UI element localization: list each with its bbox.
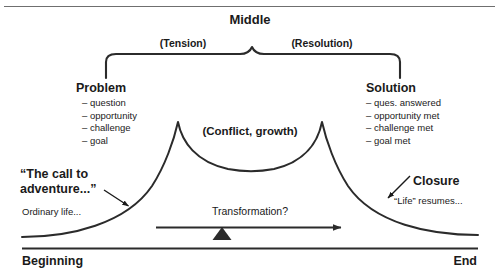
- curly-brace-icon: [106, 47, 400, 78]
- middle-label: Middle: [229, 13, 270, 28]
- beginning-label: Beginning: [22, 254, 83, 268]
- list-item: – goal met: [366, 135, 441, 148]
- problem-list: – question – opportunity – challenge – g…: [82, 97, 137, 147]
- closure-label: Closure: [413, 174, 460, 188]
- list-item: – opportunity met: [366, 110, 441, 123]
- list-item: – ques. answered: [366, 97, 441, 110]
- resolution-label: (Resolution): [291, 38, 352, 50]
- end-label: End: [453, 254, 477, 268]
- ordinary-life-label: Ordinary life...: [22, 207, 81, 218]
- list-item: – goal: [82, 135, 137, 148]
- call-to-adventure-pointer-icon: [104, 190, 129, 206]
- transformation-label: Transformation?: [212, 206, 288, 218]
- life-resumes-label: “Life” resumes...: [394, 196, 463, 207]
- triangle-fulcrum-icon: [213, 227, 232, 240]
- problem-heading: Problem: [76, 81, 126, 95]
- solution-list: – ques. answered – opportunity met – cha…: [366, 97, 441, 147]
- tension-label: (Tension): [160, 38, 206, 50]
- list-item: – question: [82, 97, 137, 110]
- call-to-adventure-label: “The call to adventure...”: [20, 167, 96, 197]
- conflict-growth-label: (Conflict, growth): [202, 125, 297, 138]
- list-item: – challenge: [82, 122, 137, 135]
- list-item: – challenge met: [366, 122, 441, 135]
- list-item: – opportunity: [82, 110, 137, 123]
- solution-heading: Solution: [366, 81, 416, 95]
- diagram-canvas: Middle (Tension) (Resolution) Problem – …: [0, 0, 499, 277]
